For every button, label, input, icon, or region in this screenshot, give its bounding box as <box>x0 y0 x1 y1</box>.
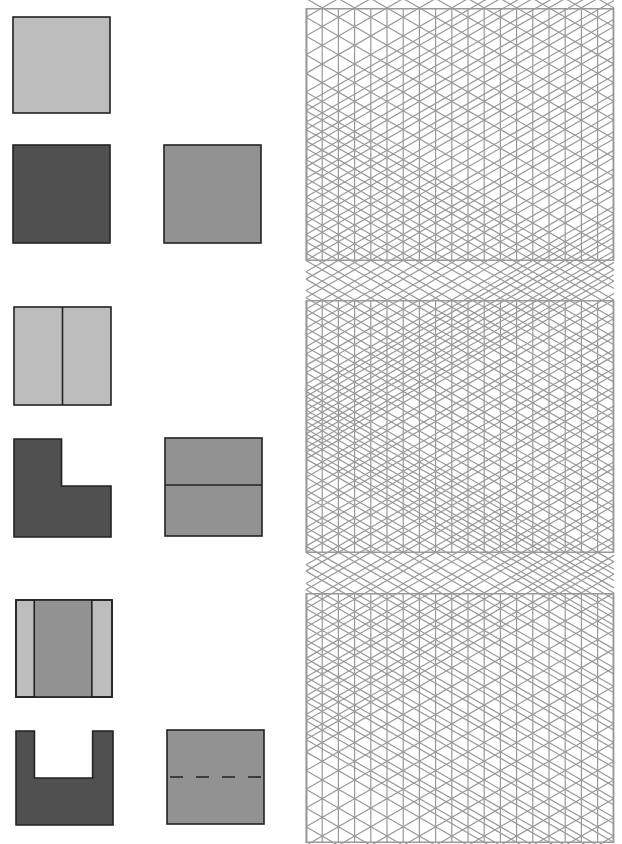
row-3-top-view-three-band <box>15 599 113 698</box>
row-3-isometric-grid <box>306 593 614 843</box>
row-2-front-view-L-shape <box>13 438 112 538</box>
row-3-side-view-dashed-hidden-line <box>166 729 265 825</box>
row-1-side-view-square <box>163 144 262 244</box>
row-3-front-view-U-shape <box>15 730 114 826</box>
row-2-side-view-hsplit <box>164 437 263 537</box>
row-1-top-view-square <box>12 16 111 114</box>
row-2-top-view-vsplit <box>13 306 112 406</box>
row-1-front-view-square <box>12 144 111 244</box>
